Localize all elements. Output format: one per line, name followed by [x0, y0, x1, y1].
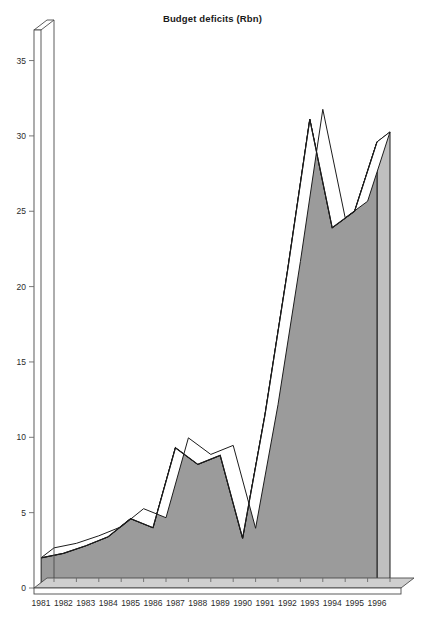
y-axis-tick-label: 25 — [17, 206, 27, 216]
y-axis-tick-label: 0 — [21, 583, 26, 593]
x-axis-tick-label: 1989 — [211, 598, 230, 608]
x-axis-tick-label: 1983 — [76, 598, 95, 608]
x-axis-tick-label: 1987 — [166, 598, 185, 608]
x-axis — [34, 578, 414, 594]
x-axis-tick-label: 1981 — [32, 598, 51, 608]
x-axis-tick-label: 1990 — [233, 598, 252, 608]
x-axis-tick-label: 1991 — [256, 598, 275, 608]
y-axis-tick-label: 35 — [17, 56, 27, 66]
y-axis-tick-label: 30 — [17, 131, 27, 141]
x-axis-tick-label: 1995 — [345, 598, 364, 608]
y-axis-tick-labels: 05101520253035 — [17, 56, 27, 593]
x-axis-tick-label: 1986 — [144, 598, 163, 608]
y-axis — [29, 20, 54, 588]
x-axis-tick-label: 1982 — [54, 598, 73, 608]
x-axis-tick-label: 1993 — [300, 598, 319, 608]
x-axis-tick-label: 1996 — [368, 598, 387, 608]
x-axis-tick-label: 1994 — [323, 598, 342, 608]
x-axis-tick-label: 1992 — [278, 598, 297, 608]
y-axis-tick-label: 5 — [21, 508, 26, 518]
y-axis-tick-label: 10 — [17, 432, 27, 442]
x-axis-tick-label: 1984 — [99, 598, 118, 608]
y-axis-tick-label: 20 — [17, 282, 27, 292]
chart-container: Budget deficits (Rbn) 05101520253035 198… — [0, 0, 425, 618]
y-axis-tick-label: 15 — [17, 357, 27, 367]
area-chart-plot: 05101520253035 1981198219831984198519861… — [0, 0, 425, 618]
x-axis-tick-label: 1985 — [121, 598, 140, 608]
x-axis-tick-labels: 1981198219831984198519861987198819891990… — [32, 598, 387, 608]
x-axis-tick-label: 1988 — [188, 598, 207, 608]
